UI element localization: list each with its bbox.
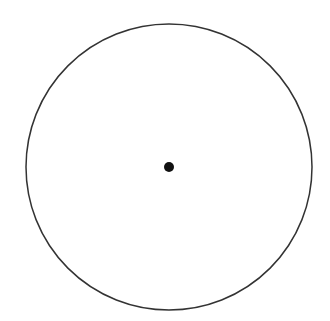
circle-diagram [0, 0, 330, 321]
center-point [164, 162, 174, 172]
